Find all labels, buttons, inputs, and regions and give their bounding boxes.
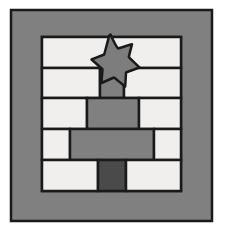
brick-r4-c2 bbox=[70, 129, 154, 160]
brick-row-3 bbox=[42, 98, 181, 129]
brick-row-4 bbox=[42, 129, 181, 160]
brick-r4-c3 bbox=[154, 129, 181, 160]
brick-r2-c1 bbox=[42, 68, 100, 98]
brick-r5-c2 bbox=[98, 160, 126, 191]
brick-r4-c1 bbox=[42, 129, 70, 160]
brick-r5-c3 bbox=[126, 160, 181, 191]
brick-r3-c2 bbox=[87, 98, 139, 129]
brick-r5-c1 bbox=[42, 160, 98, 191]
quilt-block-illustration bbox=[0, 0, 225, 233]
brick-r3-c1 bbox=[42, 98, 87, 129]
artwork-canvas bbox=[0, 0, 225, 233]
brick-r3-c3 bbox=[139, 98, 181, 129]
brick-row-5 bbox=[42, 160, 181, 191]
brick-r2-c3 bbox=[124, 68, 181, 98]
